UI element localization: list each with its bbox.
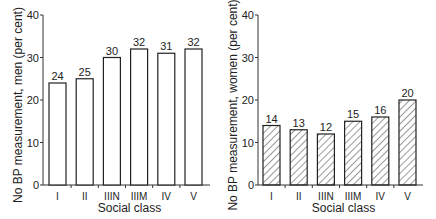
- x-tick-label: II: [296, 191, 302, 202]
- y-tick-label: 30: [27, 52, 39, 64]
- x-tick-label: IV: [162, 191, 172, 202]
- y-tick-label: 40: [27, 9, 39, 21]
- bar-value-label: 16: [374, 104, 386, 116]
- x-tick-label: I: [56, 191, 59, 202]
- y-tick-label: 30: [242, 52, 254, 64]
- y-tick-label: 20: [242, 94, 254, 106]
- women-bar-chart: 01020304014I13II12IIIN15IIIM16IV20VSocia…: [226, 0, 423, 215]
- bar-value-label: 25: [79, 66, 91, 78]
- bar: [158, 53, 175, 185]
- y-tick-label: 10: [242, 137, 254, 149]
- x-axis-title: Social class: [312, 201, 375, 215]
- x-tick-label: II: [82, 191, 88, 202]
- bar-value-label: 32: [187, 36, 199, 48]
- x-tick-label: V: [190, 191, 197, 202]
- bar-value-label: 24: [51, 70, 63, 82]
- bar-value-label: 30: [106, 45, 118, 57]
- bar-value-label: 31: [160, 40, 172, 52]
- bar: [131, 49, 148, 185]
- y-tick-label: 10: [27, 137, 39, 149]
- y-axis-title: No BP measurement, women (per cent): [226, 0, 240, 211]
- bar: [372, 117, 389, 185]
- bar: [290, 130, 307, 185]
- bar-value-label: 13: [293, 117, 305, 129]
- bar-value-label: 14: [265, 113, 277, 125]
- y-axis-title: No BP measurement, men (per cent): [11, 7, 25, 203]
- bar: [185, 49, 202, 185]
- men-bar-chart: 01020304024I25II30IIIN32IIIM31IV32VSocia…: [11, 7, 210, 215]
- y-tick-label: 0: [33, 179, 39, 191]
- x-tick-label: IV: [376, 191, 386, 202]
- bar-value-label: 32: [133, 36, 145, 48]
- bar-value-label: 20: [401, 87, 413, 99]
- y-tick-label: 20: [27, 94, 39, 106]
- bar: [103, 58, 120, 186]
- bar: [317, 134, 334, 185]
- x-axis-title: Social class: [98, 201, 161, 215]
- x-tick-label: I: [270, 191, 273, 202]
- bar-value-label: 12: [320, 121, 332, 133]
- bar: [345, 121, 362, 185]
- bar: [49, 83, 66, 185]
- x-tick-label: V: [404, 191, 411, 202]
- bar: [76, 79, 93, 185]
- figure: 01020304024I25II30IIIN32IIIM31IV32VSocia…: [0, 0, 436, 219]
- bar-value-label: 15: [347, 108, 359, 120]
- bar: [263, 126, 280, 186]
- y-tick-label: 0: [248, 179, 254, 191]
- bar: [399, 100, 416, 185]
- y-tick-label: 40: [242, 9, 254, 21]
